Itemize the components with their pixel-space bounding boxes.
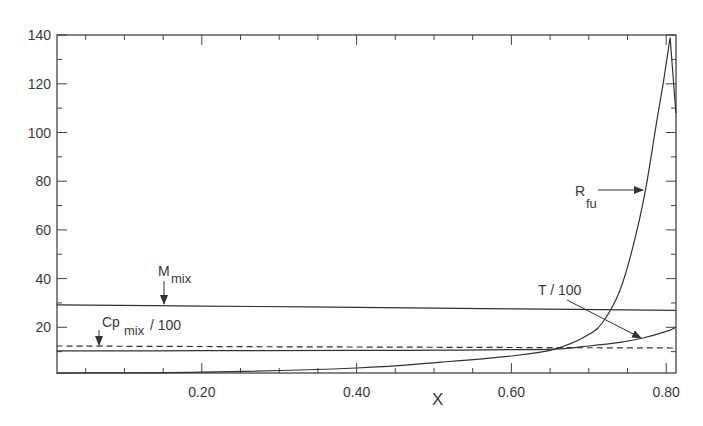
y-tick-label: 40 [35, 271, 51, 287]
y-tick-label: 140 [28, 27, 52, 43]
cp-mix-label: Cp [102, 314, 120, 330]
y-tick-label: 80 [35, 173, 51, 189]
r-fu-subscript: fu [586, 196, 597, 211]
x-tick-label: 0.60 [498, 384, 525, 400]
x-tick-label: 0.80 [653, 384, 680, 400]
t-arrow-icon [567, 300, 641, 338]
t-label: T / 100 [538, 282, 582, 298]
x-tick-label: 0.40 [343, 384, 370, 400]
m-mix-label: M [158, 263, 170, 279]
cp-mix-annotation: Cp mix / 100 [99, 314, 181, 345]
chart-canvas: 20406080100120140 0.200.400.600.80 X M m… [0, 0, 703, 426]
r-fu-label: R [575, 183, 585, 199]
y-tick-label: 20 [35, 319, 51, 335]
cp-mix-suffix: / 100 [150, 317, 181, 333]
m-mix-subscript: mix [171, 271, 192, 286]
series-m-mix [57, 305, 676, 310]
cp-mix-subscript: mix [124, 323, 145, 338]
x-tick-label: 0.20 [188, 384, 215, 400]
r-fu-annotation: R fu [575, 183, 643, 211]
y-tick-label: 120 [28, 76, 52, 92]
y-tick-label: 60 [35, 222, 51, 238]
m-mix-annotation: M mix [158, 263, 192, 304]
y-tick-label: 100 [28, 125, 52, 141]
x-axis-title: X [432, 390, 443, 409]
